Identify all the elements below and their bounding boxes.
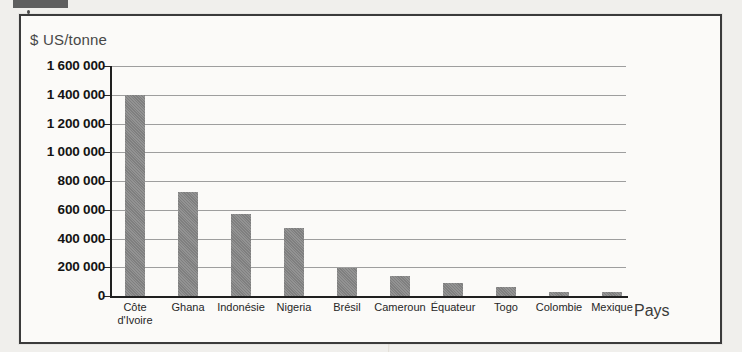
- x-tick-label: Indonésie: [213, 301, 269, 314]
- x-tick-label: Brésil: [319, 301, 375, 314]
- bar-cameroun: [390, 276, 410, 296]
- gridline: [112, 124, 626, 125]
- y-tick-label: 1 400 000: [15, 87, 105, 103]
- y-tick-label: 200 000: [15, 259, 105, 275]
- y-tick-label: 600 000: [15, 202, 105, 218]
- y-tick-label: 1 600 000: [15, 58, 105, 74]
- y-axis-line: [110, 66, 112, 297]
- y-tick-label: 800 000: [15, 173, 105, 189]
- y-tick-label: 1 200 000: [15, 116, 105, 132]
- bar-indon-sie: [231, 214, 251, 296]
- x-tick-label: Togo: [478, 301, 534, 314]
- bar-nigeria: [284, 228, 304, 296]
- x-axis-line: [110, 296, 628, 298]
- y-axis-title: $ US/tonne: [30, 31, 107, 48]
- x-axis-title: Pays: [634, 302, 670, 320]
- gridline: [112, 152, 626, 153]
- plot-area: 1 600 0001 400 0001 200 0001 000 000800 …: [112, 66, 626, 296]
- bar-br-sil: [337, 268, 357, 296]
- x-tick-label: Équateur: [425, 301, 481, 314]
- y-tick-label: 0: [15, 288, 105, 304]
- y-tick-label: 1 000 000: [15, 144, 105, 160]
- bar--quateur: [443, 283, 463, 296]
- bar-togo: [496, 287, 516, 296]
- scanned-page: $ US/tonne 1 600 0001 400 0001 200 0001 …: [0, 0, 742, 352]
- chart-frame: $ US/tonne 1 600 0001 400 0001 200 0001 …: [19, 14, 722, 344]
- gridline: [112, 181, 626, 182]
- x-tick-label: Colombie: [531, 301, 587, 314]
- x-tick-label: Mexique: [584, 301, 640, 314]
- x-tick-label: Nigeria: [266, 301, 322, 314]
- x-tick-label: Côte d'Ivoire: [107, 301, 163, 327]
- gridline: [112, 95, 626, 96]
- gridline: [112, 66, 626, 67]
- bar-ghana: [178, 192, 198, 296]
- x-tick-label: Cameroun: [372, 301, 428, 314]
- bar-c-te-d-ivoire: [125, 95, 145, 296]
- y-tick-label: 400 000: [15, 231, 105, 247]
- x-tick-label: Ghana: [160, 301, 216, 314]
- page-corner-tab: [13, 0, 68, 8]
